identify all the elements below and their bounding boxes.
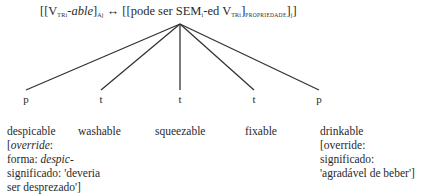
node-label: t bbox=[244, 93, 264, 105]
branch-line bbox=[26, 24, 180, 90]
node-label: t bbox=[91, 93, 111, 105]
form-label: forma: bbox=[7, 153, 41, 165]
form-line: forma: despic- bbox=[7, 152, 100, 166]
override-line: [override: bbox=[7, 138, 100, 152]
branch-line bbox=[180, 24, 319, 90]
node-label: p bbox=[16, 93, 36, 105]
colon: : bbox=[50, 139, 53, 151]
override-line: [override: bbox=[320, 138, 415, 152]
meaning-line: significado: bbox=[320, 152, 415, 166]
leaf-washable: washable bbox=[78, 124, 121, 138]
meaning-line: significado: 'deveria bbox=[7, 166, 100, 180]
leaf-drinkable: drinkable [override: significado: 'agrad… bbox=[320, 124, 415, 180]
override-label: override bbox=[11, 139, 50, 151]
form-value: despic- bbox=[41, 153, 74, 165]
branch-line bbox=[101, 24, 180, 90]
leaf-squeezable: squeezable bbox=[155, 124, 205, 138]
meaning-line: ser desprezado'] bbox=[7, 180, 100, 194]
branch-line bbox=[180, 24, 254, 90]
node-label: p bbox=[309, 93, 329, 105]
node-label: t bbox=[170, 93, 190, 105]
leaf-word: drinkable bbox=[320, 124, 415, 138]
leaf-fixable: fixable bbox=[245, 124, 277, 138]
meaning-line: 'agradável de beber'] bbox=[320, 166, 415, 180]
